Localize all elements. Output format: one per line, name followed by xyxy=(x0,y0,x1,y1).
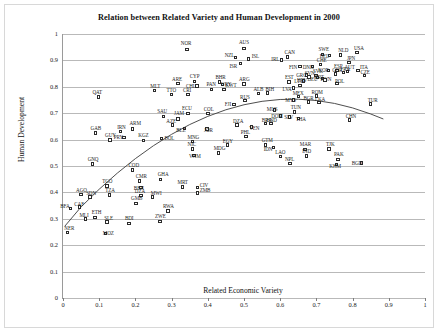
data-point-label: EGY xyxy=(223,139,233,144)
data-point-label: BIH xyxy=(266,87,274,92)
chart-title: Relation between Related Variety and Hum… xyxy=(5,13,433,22)
data-point-label: GMB xyxy=(131,196,142,201)
data-point-label: COD xyxy=(129,163,139,168)
data-point-label: SAU xyxy=(157,109,167,114)
x-tick-label: 0.5 xyxy=(232,302,256,308)
data-point-label: IND xyxy=(302,149,311,154)
data-point-label: THA xyxy=(296,117,306,122)
data-point-label: URY xyxy=(221,82,231,87)
data-point-label: PAK xyxy=(334,152,343,157)
data-point xyxy=(170,93,173,96)
data-point xyxy=(142,139,145,142)
data-point xyxy=(355,51,358,54)
data-point xyxy=(94,131,97,134)
data-point-label: TUN xyxy=(291,105,301,110)
data-point-label: MAR xyxy=(300,142,311,147)
data-point-label: NOR xyxy=(181,41,191,46)
data-point-label: BGD xyxy=(352,161,362,166)
data-point-label: MYS xyxy=(285,98,296,103)
data-point-label: JOR xyxy=(204,128,213,133)
data-point-label: AUS xyxy=(239,40,249,45)
data-point-label: GAB xyxy=(91,126,101,131)
data-point-label: PHL xyxy=(241,130,250,135)
data-point xyxy=(279,155,282,158)
x-tick-label: 0 xyxy=(51,302,75,308)
data-point-label: BOL xyxy=(164,136,174,141)
data-point xyxy=(127,222,130,225)
data-point-label: MEX xyxy=(293,91,304,96)
data-point-label: QAT xyxy=(92,90,102,95)
data-point-label: ZMB xyxy=(200,188,211,193)
data-point xyxy=(159,178,162,181)
data-point xyxy=(93,216,96,219)
x-tick-label: 0.6 xyxy=(268,302,292,308)
data-point xyxy=(305,154,308,157)
data-point-label: ISR xyxy=(229,64,237,69)
data-point-label: MUS xyxy=(267,107,278,112)
y-tick-label: 0 xyxy=(32,295,58,301)
data-point xyxy=(176,117,179,120)
data-point-label: IRN xyxy=(117,125,125,130)
data-point xyxy=(119,130,122,133)
data-point-label: ARE xyxy=(172,77,182,82)
data-point-label: LKA xyxy=(315,97,325,102)
data-point-label: ETH xyxy=(92,210,102,215)
data-point-label: RWA xyxy=(163,204,174,209)
data-point xyxy=(79,193,82,196)
data-point-label: BHR xyxy=(215,75,225,80)
data-point-label: CRI xyxy=(183,88,191,93)
data-point-label: VNM xyxy=(189,154,201,159)
data-point xyxy=(298,84,301,87)
data-point-label: ALB xyxy=(253,87,263,92)
data-point-label: KGZ xyxy=(138,133,148,138)
data-point-label: MLI xyxy=(79,213,88,218)
data-point-label: CHE xyxy=(317,58,327,63)
data-point-label: CMR xyxy=(136,174,147,179)
data-point xyxy=(191,147,194,150)
data-point xyxy=(134,202,137,205)
data-point xyxy=(138,179,141,182)
data-point-label: BLZ xyxy=(176,128,185,133)
data-point-label: TUR xyxy=(368,98,378,103)
data-point-label: BFA xyxy=(60,204,69,209)
data-point xyxy=(242,82,245,85)
data-point-label: BRA xyxy=(262,118,272,123)
data-point-label: DZA xyxy=(233,119,243,124)
data-point-label: ISL xyxy=(252,54,259,59)
data-point-label: ECU xyxy=(182,106,192,111)
data-point xyxy=(206,112,209,115)
data-point-label: BGR xyxy=(303,96,313,101)
x-tick-label: 0.9 xyxy=(377,302,401,308)
trend-line xyxy=(63,34,425,298)
y-tick-label: 0.4 xyxy=(32,189,58,195)
data-point-label: KHM xyxy=(329,164,341,169)
data-point xyxy=(131,127,134,130)
data-point-label: JPN xyxy=(347,56,355,61)
data-point-label: NER xyxy=(64,226,74,231)
y-tick-label: 0.2 xyxy=(32,242,58,248)
x-tick-label: 0.7 xyxy=(304,302,328,308)
data-point xyxy=(336,158,339,161)
data-point-label: POL xyxy=(335,79,344,84)
data-point-label: BDI xyxy=(125,216,133,221)
data-point-label: LAO xyxy=(275,150,285,155)
data-point-label: ARM xyxy=(130,121,141,126)
data-point-label: GNQ xyxy=(88,157,99,162)
data-point xyxy=(176,82,179,85)
data-point-label: AZE xyxy=(166,119,176,124)
data-point-label: RUS xyxy=(240,95,250,100)
x-tick-label: 0.1 xyxy=(87,302,111,308)
data-point-label: SLV xyxy=(284,115,293,120)
x-tick-label: 1 xyxy=(413,302,437,308)
data-point xyxy=(166,209,169,212)
y-axis-title: Human Development xyxy=(17,70,26,190)
data-point xyxy=(293,110,296,113)
data-point-label: COL xyxy=(204,107,214,112)
data-point-label: USA xyxy=(354,46,364,51)
data-point-label: NLD xyxy=(338,48,348,53)
data-point-label: MLT xyxy=(150,84,160,89)
data-point xyxy=(131,168,134,171)
data-point xyxy=(153,89,156,92)
y-tick-label: 1 xyxy=(32,31,58,37)
data-point-label: FJI xyxy=(225,102,231,107)
